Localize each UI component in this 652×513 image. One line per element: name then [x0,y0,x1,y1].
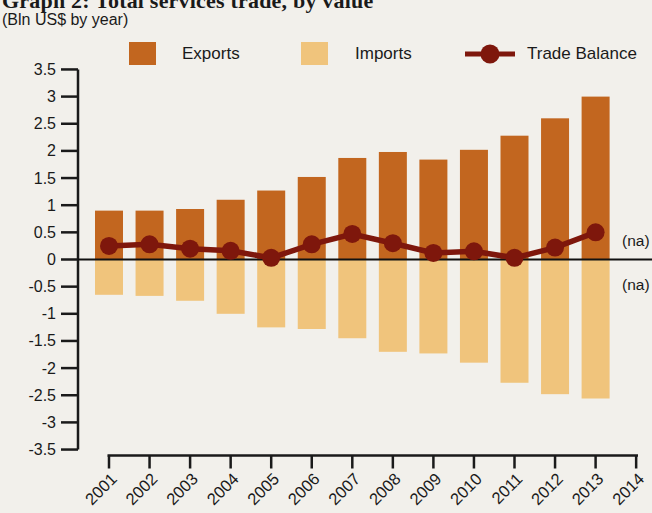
export-bar [541,118,569,259]
x-tick-label: 2008 [365,469,404,508]
y-tick-label: -3.5 [28,441,56,458]
x-tick-label: 2006 [284,469,323,508]
y-tick-label: 1.5 [34,170,56,187]
x-tick-label: 2012 [527,469,566,508]
y-tick-label: -2 [42,360,56,377]
y-tick-label: 2 [47,142,56,159]
x-tick-label: 2003 [163,469,202,508]
import-bar [582,260,610,399]
x-tick-label: 2007 [325,469,364,508]
y-tick-label: -3 [42,414,56,431]
trade-balance-point [343,225,361,243]
import-bar [541,260,569,395]
trade-balance-point [546,239,564,257]
x-tick-label: 2005 [244,469,283,508]
import-bar [338,260,366,339]
import-bar [217,260,245,314]
trade-balance-point [181,240,199,258]
import-bar [419,260,447,354]
x-tick-label: 2013 [568,469,607,508]
import-bar [298,260,326,330]
trade-balance-point [424,244,442,262]
trade-balance-point [303,235,321,253]
y-tick-label: 3.5 [34,61,56,78]
x-tick-label: 2004 [203,469,242,508]
trade-balance-point [384,234,402,252]
trade-balance-point [262,249,280,267]
y-tick-label: 0 [47,251,56,268]
y-tick-label: 3 [47,88,56,105]
y-tick-label: 0.5 [34,224,56,241]
chart-page: Graph 2: Total services trade, by value … [0,0,652,513]
import-bar [257,260,285,328]
import-bar [95,260,123,295]
trade-balance-point [587,223,605,241]
na-annotation-exports: (na) [622,232,650,249]
y-tick-label: 2.5 [34,115,56,132]
x-tick-label: 2009 [406,469,445,508]
trade-balance-point [141,235,159,253]
x-tick-label: 2014 [609,469,648,508]
trade-balance-point [222,242,240,260]
import-bar [460,260,488,363]
trade-balance-point [506,249,524,267]
export-bar [338,158,366,260]
x-tick-label: 2010 [446,469,485,508]
trade-balance-point [465,242,483,260]
y-tick-label: -2.5 [28,387,56,404]
y-tick-label: 1 [47,197,56,214]
y-tick-label: -1 [42,305,56,322]
export-bar [501,136,529,260]
import-bar [176,260,204,301]
import-bar [136,260,164,296]
x-tick-label: 2001 [81,469,120,508]
na-annotation-imports: (na) [622,276,650,293]
import-bar [501,260,529,383]
trade-balance-point [100,237,118,255]
chart-canvas: 3.532.521.510.50-0.5-1-1.5-2-2.5-3-3.520… [0,0,652,513]
import-bar [379,260,407,352]
x-tick-label: 2002 [122,469,161,508]
y-tick-label: -1.5 [28,332,56,349]
x-tick-label: 2011 [488,469,526,507]
y-tick-label: -0.5 [28,278,56,295]
